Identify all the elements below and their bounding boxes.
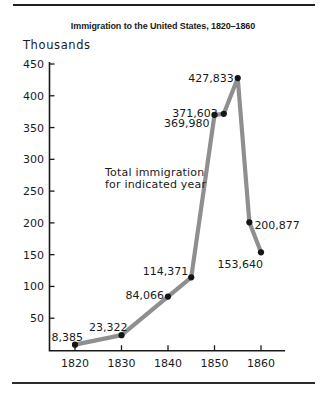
- data-point-label: 427,833: [188, 72, 234, 85]
- annotation-line-2: for indicated year: [105, 179, 206, 191]
- y-tick-label: 300: [23, 153, 44, 166]
- data-point-label: 8,385: [52, 331, 84, 344]
- figure-page: Immigration to the United States, 1820–1…: [0, 0, 326, 397]
- data-point-dot: [235, 75, 241, 81]
- y-tick-label: 100: [23, 280, 44, 293]
- y-tick-label: 450: [23, 58, 44, 71]
- data-point-dot: [258, 249, 264, 255]
- data-point-label: 153,640: [218, 258, 264, 271]
- y-tick-label: 150: [23, 249, 44, 262]
- x-tick-label: 1860: [247, 357, 275, 370]
- bottom-rule: [12, 382, 315, 384]
- immigration-line-chart: 5010015020025030035040045018201830184018…: [0, 0, 326, 397]
- data-point-label: 371,603: [172, 107, 218, 120]
- x-tick-label: 1820: [61, 357, 89, 370]
- data-point-label: 200,877: [254, 219, 300, 232]
- data-point-label: 114,371: [143, 265, 189, 278]
- data-point-label: 23,322: [89, 321, 128, 334]
- data-point-dot: [246, 219, 252, 225]
- y-tick-label: 400: [23, 90, 44, 103]
- data-point-dot: [188, 274, 194, 280]
- data-point-dot: [165, 293, 171, 299]
- x-tick-label: 1850: [201, 357, 229, 370]
- chart-annotation: Total immigration for indicated year: [105, 167, 206, 191]
- data-point-label: 84,066: [126, 289, 165, 302]
- y-tick-label: 350: [23, 122, 44, 135]
- y-tick-label: 50: [30, 312, 44, 325]
- y-tick-label: 200: [23, 217, 44, 230]
- data-point-dot: [221, 111, 227, 117]
- x-tick-label: 1840: [154, 357, 182, 370]
- y-tick-label: 250: [23, 185, 44, 198]
- x-tick-label: 1830: [108, 357, 136, 370]
